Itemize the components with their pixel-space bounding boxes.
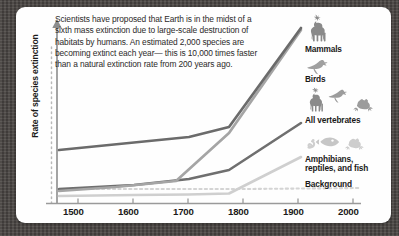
legend-label-mammals: Mammals — [305, 45, 342, 55]
y-axis-label: Rate of species extinction — [30, 26, 40, 146]
deer-icon — [305, 14, 339, 42]
x-tick-1900: 1900 — [283, 206, 304, 217]
bird-icon — [305, 57, 335, 75]
legend-label-background: Background — [305, 180, 352, 190]
explanatory-text: Scientists have proposed that Earth is i… — [55, 14, 260, 70]
legend-label-amphibians-line2: reptiles, and fish — [305, 164, 368, 174]
vertebrates-icon — [305, 87, 385, 115]
legend-label-all-vertebrates: All vertebrates — [305, 116, 360, 126]
x-tick-1500: 1500 — [63, 206, 84, 217]
x-tick-2000: 2000 — [338, 206, 359, 217]
x-axis — [46, 199, 361, 204]
figure-card: Rate of species extinction Scientists ha… — [16, 7, 391, 223]
x-tick-1800: 1800 — [228, 206, 249, 217]
legend-label-birds: Birds — [305, 75, 325, 85]
amphibian-fish-icon — [305, 129, 385, 155]
figure-frame: Rate of species extinction Scientists ha… — [0, 0, 399, 236]
x-tick-1700: 1700 — [173, 206, 194, 217]
x-tick-1600: 1600 — [118, 206, 139, 217]
